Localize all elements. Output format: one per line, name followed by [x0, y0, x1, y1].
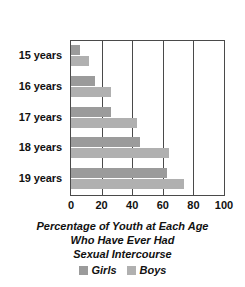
bar-boys-16 — [71, 87, 111, 97]
legend-item-boys: Boys — [127, 264, 167, 276]
legend-swatch-icon — [127, 266, 136, 275]
bar-boys-18 — [71, 148, 169, 158]
y-axis-tick-label: 19 years — [19, 163, 62, 194]
bar-group — [71, 164, 224, 195]
bar-group — [71, 133, 224, 164]
chart-title-line: Sexual Intercourse — [8, 247, 237, 261]
bar-girls-19 — [71, 168, 167, 178]
y-axis-labels: 15 years16 years17 years18 years19 years — [0, 40, 66, 196]
x-axis-tick-label: 0 — [68, 199, 74, 211]
x-axis-tick-label: 80 — [187, 199, 199, 211]
x-axis-tick-label: 20 — [95, 199, 107, 211]
x-axis-tick-label: 60 — [157, 199, 169, 211]
legend-label: Girls — [92, 264, 117, 276]
bar-girls-18 — [71, 137, 140, 147]
bar-boys-17 — [71, 118, 137, 128]
y-axis-tick-label: 15 years — [19, 40, 62, 71]
bar-boys-15 — [71, 56, 89, 66]
bar-girls-16 — [71, 76, 95, 86]
chart-title: Percentage of Youth at Each AgeWho Have … — [8, 219, 237, 261]
y-axis-tick-label: 17 years — [19, 102, 62, 133]
chart-legend: GirlsBoys — [0, 264, 245, 276]
plot-area — [70, 40, 225, 196]
bar-group — [71, 72, 224, 103]
bar-group — [71, 103, 224, 134]
legend-item-girls: Girls — [79, 264, 117, 276]
y-axis-tick-label: 18 years — [19, 132, 62, 163]
bar-chart-figure: 15 years16 years17 years18 years19 years… — [0, 0, 245, 287]
x-axis-tick-label: 100 — [215, 199, 233, 211]
chart-title-line: Percentage of Youth at Each Age — [8, 219, 237, 233]
bar-girls-17 — [71, 107, 111, 117]
x-axis-labels: 020406080100 — [70, 199, 225, 215]
legend-swatch-icon — [79, 266, 88, 275]
bar-girls-15 — [71, 45, 80, 55]
chart-title-line: Who Have Ever Had — [8, 233, 237, 247]
bar-boys-19 — [71, 179, 184, 189]
bar-group — [71, 41, 224, 72]
x-axis-tick-label: 40 — [126, 199, 138, 211]
y-axis-tick-label: 16 years — [19, 71, 62, 102]
legend-label: Boys — [140, 264, 167, 276]
